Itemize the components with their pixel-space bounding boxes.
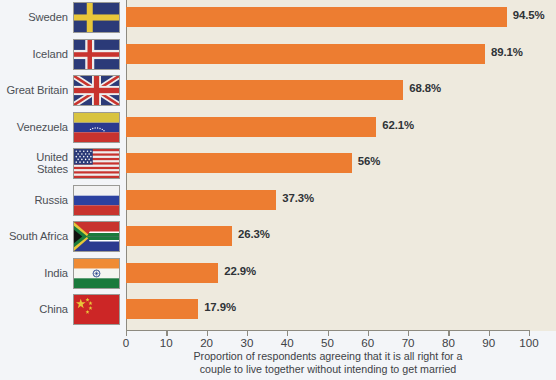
x-axis-caption: Proportion of respondents agreeing that … (126, 350, 530, 377)
x-tick-label: 70 (388, 336, 428, 349)
flag-iceland-icon (73, 39, 120, 70)
flag-russia-icon (73, 185, 120, 216)
flag-venezuela-icon (73, 112, 120, 143)
flag-united-states-icon (73, 148, 120, 179)
x-tick-label: 20 (187, 336, 227, 349)
bar (126, 263, 218, 283)
table-row: India22.9% (0, 257, 556, 291)
bar (126, 44, 485, 64)
flag-india-icon (73, 258, 120, 289)
x-axis-caption-line2: couple to live together without intendin… (126, 363, 530, 376)
x-tick-label: 100 (509, 336, 549, 349)
country-label-line1: Sweden (0, 11, 68, 23)
country-label: Venezuela (0, 121, 68, 133)
table-row: Venezuela62.1% (0, 111, 556, 145)
x-tick-label: 60 (348, 336, 388, 349)
x-tick-label: 80 (428, 336, 468, 349)
bar (126, 190, 276, 210)
x-axis-caption-line1: Proportion of respondents agreeing that … (126, 350, 530, 363)
bar (126, 153, 352, 173)
country-label-line1: Iceland (0, 48, 68, 60)
bar-value-label: 56% (358, 155, 381, 167)
bar (126, 226, 232, 246)
country-label-line1: China (0, 303, 68, 315)
country-label: Sweden (0, 11, 68, 23)
table-row: Iceland89.1% (0, 38, 556, 72)
country-label-line1: South Africa (0, 230, 68, 242)
table-row: Great Britain68.8% (0, 74, 556, 108)
bar-value-label: 62.1% (382, 119, 414, 131)
x-tick-label: 90 (469, 336, 509, 349)
bar-value-label: 94.5% (513, 9, 545, 21)
bar-value-label: 89.1% (491, 46, 523, 58)
bar (126, 117, 376, 137)
x-tick-label: 50 (308, 336, 348, 349)
country-label: Great Britain (0, 84, 68, 96)
country-label-line1: India (0, 267, 68, 279)
bar-value-label: 68.8% (409, 82, 441, 94)
table-row: China17.9% (0, 293, 556, 327)
country-label: India (0, 267, 68, 279)
bar-chart: Sweden94.5%Iceland89.1%Great Britain68.8… (0, 0, 556, 380)
x-tick-label: 30 (227, 336, 267, 349)
bar-value-label: 37.3% (282, 192, 314, 204)
flag-great-britain-icon (73, 75, 120, 106)
flag-sweden-icon (73, 2, 120, 33)
country-label: Russia (0, 194, 68, 206)
x-tick-label: 40 (267, 336, 307, 349)
country-label-line1: Great Britain (0, 84, 68, 96)
country-label-line1: Venezuela (0, 121, 68, 133)
table-row: Russia37.3% (0, 184, 556, 218)
table-row: Sweden94.5% (0, 1, 556, 35)
bar-value-label: 17.9% (204, 301, 236, 313)
country-label: UnitedStates (0, 151, 68, 176)
flag-south-africa-icon (73, 221, 120, 252)
table-row: UnitedStates56% (0, 147, 556, 181)
country-label: South Africa (0, 230, 68, 242)
country-label-line1: Russia (0, 194, 68, 206)
country-label-line2: States (0, 163, 68, 175)
bar (126, 7, 507, 27)
bar-value-label: 26.3% (238, 228, 270, 240)
x-tick-label: 0 (106, 336, 146, 349)
country-label: Iceland (0, 48, 68, 60)
bar (126, 299, 198, 319)
bar-value-label: 22.9% (224, 265, 256, 277)
flag-china-icon (73, 294, 120, 325)
x-tick-label: 10 (146, 336, 186, 349)
country-label-line1: United (0, 151, 68, 163)
bar (126, 80, 403, 100)
country-label: China (0, 303, 68, 315)
table-row: South Africa26.3% (0, 220, 556, 254)
